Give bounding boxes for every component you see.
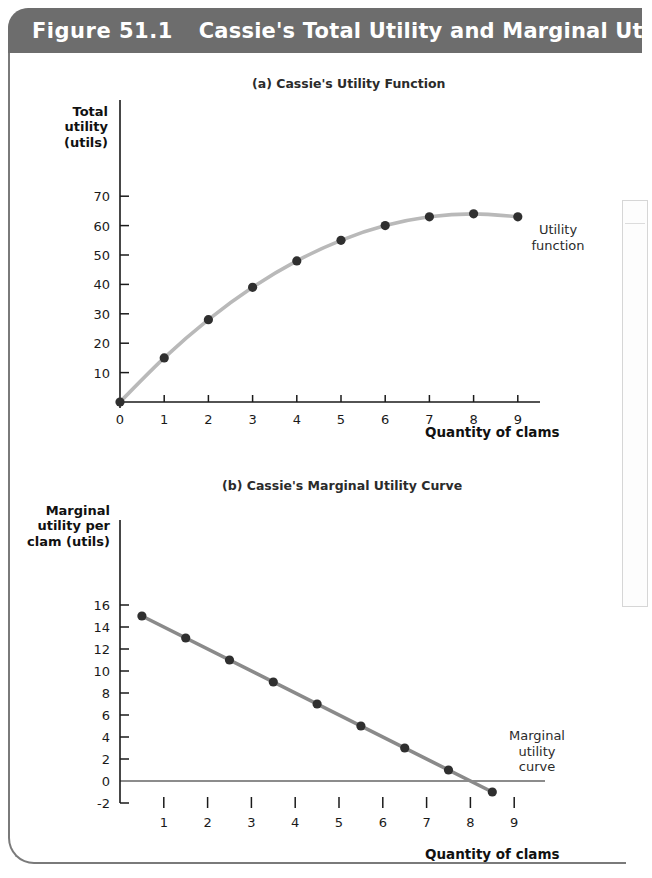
panel-b-x-tick-label: 1 <box>160 815 168 830</box>
marginal-utility-data-point <box>356 721 365 730</box>
marginal-utility-data-point <box>137 611 146 620</box>
panel-b-x-tick-label: 6 <box>379 815 387 830</box>
panel-b-x-tick-label: 7 <box>422 815 430 830</box>
panel-b-x-tick-label: 3 <box>247 815 255 830</box>
panel-b-y-tick-label: 10 <box>93 664 110 679</box>
panel-b-x-tick-label: 9 <box>510 815 518 830</box>
marginal-utility-data-point <box>181 633 190 642</box>
panel-b-x-tick-label: 2 <box>203 815 211 830</box>
panel-b-y-tick-label: 14 <box>93 620 110 635</box>
marginal-utility-data-point <box>225 655 234 664</box>
marginal-utility-data-point <box>400 743 409 752</box>
panel-b-y-tick-label: 2 <box>102 752 110 767</box>
panel-b-x-tick-label: 5 <box>335 815 343 830</box>
panel-b-y-tick-label: 4 <box>102 730 110 745</box>
panel-b-x-tick-label: 4 <box>291 815 299 830</box>
panel-b-y-tick-label: 16 <box>93 598 110 613</box>
panel-b-y-tick-label: 12 <box>93 642 110 657</box>
panel-b-y-tick-label: 8 <box>102 686 110 701</box>
panel-b-x-tick-label: 8 <box>466 815 474 830</box>
panel-b-y-tick-label: 0 <box>102 774 110 789</box>
marginal-utility-data-point <box>313 699 322 708</box>
marginal-utility-data-point <box>444 765 453 774</box>
panel-b-y-tick-label: 6 <box>102 708 110 723</box>
marginal-utility-data-point <box>269 677 278 686</box>
marginal-utility-data-point <box>488 787 497 796</box>
panel-b-y-tick-label: -2 <box>97 796 110 811</box>
